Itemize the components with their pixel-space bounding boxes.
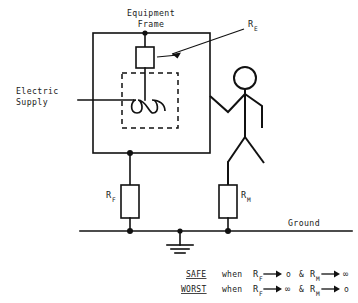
person-right-arm: [245, 94, 262, 128]
equipment-frame-label-line2: Frame: [138, 19, 165, 29]
condition-worst-term2-arrow-head: [334, 286, 340, 293]
condition-safe-when: when: [222, 270, 242, 279]
condition-worst-term1-subscript: F: [259, 290, 263, 297]
condition-safe-key: SAFE: [186, 270, 206, 279]
winding-coil: [132, 100, 165, 113]
person-left-leg: [228, 137, 245, 185]
condition-worst-term2-limit: o: [344, 285, 349, 294]
person-left-arm-touching-frame: [210, 94, 245, 112]
condition-worst-term2-subscript: M: [316, 290, 320, 297]
condition-worst-term1-arrow-head: [276, 286, 282, 293]
rm-label-subscript: M: [247, 196, 251, 203]
condition-safe-term1-subscript: F: [259, 275, 263, 282]
condition-row-safe: SAFE when R F o & R M ∞: [186, 269, 349, 282]
electrical-safety-diagram: Equipment Frame Electric Supply R E R F …: [0, 0, 358, 303]
condition-worst-conjunction: &: [299, 285, 304, 294]
condition-safe-term1-arrow-head: [276, 271, 282, 278]
person-right-leg: [245, 137, 264, 163]
condition-safe-term2-limit: ∞: [343, 269, 349, 279]
re-resistor-box: [136, 47, 154, 68]
rf-label-subscript: F: [112, 196, 116, 203]
condition-row-worst: WORST when R F ∞ & R M o: [181, 284, 349, 297]
electric-supply-label-line2: Supply: [16, 97, 48, 107]
condition-safe-term2-subscript: M: [316, 275, 320, 282]
equipment-frame-label-line1: Equipment: [127, 8, 175, 18]
person-head: [234, 67, 256, 89]
condition-worst-key: WORST: [181, 285, 207, 294]
condition-worst-when: when: [222, 285, 242, 294]
frame-top-junction-dot: [142, 30, 147, 35]
condition-safe-term1-limit: o: [286, 270, 291, 279]
electric-supply-label-line1: Electric: [16, 86, 59, 96]
condition-safe-conjunction: &: [299, 270, 304, 279]
rm-resistor-box: [219, 185, 237, 218]
rf-resistor-box: [121, 185, 139, 218]
condition-safe-term2-arrow-head: [334, 271, 340, 278]
ground-label: Ground: [288, 218, 320, 228]
condition-worst-term1-limit: ∞: [285, 284, 291, 294]
diagram-canvas: Equipment Frame Electric Supply R E R F …: [0, 0, 358, 303]
re-label-subscript: E: [254, 25, 258, 32]
